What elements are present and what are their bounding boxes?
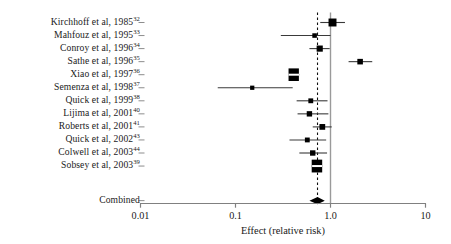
- study-reference-number: 36: [133, 67, 140, 74]
- forest-row: [139, 138, 327, 143]
- forest-row: [139, 111, 329, 116]
- forest-row: [139, 68, 300, 81]
- x-axis-tick-label: 1.0: [324, 210, 337, 221]
- study-label-text: Semenza et al, 1998: [54, 81, 133, 92]
- study-reference-number: 33: [133, 28, 140, 35]
- study-label-text: Mahfouz et al, 1995: [54, 29, 133, 40]
- forest-row: [139, 59, 373, 65]
- x-axis-tick-label: 0.1: [229, 210, 242, 221]
- study-label-text: Lijima et al, 2001: [63, 107, 133, 118]
- point-estimate-marker: [307, 111, 312, 116]
- study-reference-number: 32: [133, 15, 140, 22]
- study-label: Mahfouz et al, 199533: [54, 29, 140, 40]
- forest-plot: Kirchhoff et al, 198532Mahfouz et al, 19…: [0, 0, 451, 244]
- x-axis-tick-label: 0.01: [132, 210, 150, 221]
- point-estimate-marker: [308, 98, 313, 103]
- study-label-text: Xiao et al, 1997: [70, 68, 133, 79]
- x-axis-tick-label: 10: [420, 210, 430, 221]
- study-label: Roberts et al, 200141: [59, 120, 140, 131]
- forest-row: [139, 98, 328, 103]
- x-axis-title: Effect (relative risk): [241, 225, 325, 236]
- study-label-text: Colwell et al, 2003: [58, 146, 133, 157]
- point-estimate-marker: [312, 33, 317, 38]
- study-label: Sathe et al, 199635: [68, 55, 140, 66]
- study-label-text: Conroy et al, 1996: [60, 42, 133, 53]
- study-label-text: Quick et al, 1999: [65, 94, 133, 105]
- combined-label: Combined: [99, 194, 140, 205]
- forest-row: [139, 33, 331, 38]
- forest-row: [139, 150, 328, 155]
- study-label: Xiao et al, 199736: [70, 68, 140, 79]
- point-estimate-marker: [305, 138, 310, 143]
- study-reference-number: 37: [133, 80, 140, 87]
- study-label-text: Kirchhoff et al, 1985: [51, 16, 133, 27]
- point-estimate-marker: [310, 150, 315, 155]
- study-reference-number: 35: [133, 54, 140, 61]
- study-reference-number: 40: [133, 106, 140, 113]
- study-label: Kirchhoff et al, 198532: [51, 16, 140, 27]
- study-label-text: Roberts et al, 2001: [59, 120, 133, 131]
- study-reference-number: 38: [133, 93, 140, 100]
- forest-row: [139, 124, 332, 130]
- forest-row: [139, 86, 293, 90]
- study-reference-number: 39: [133, 158, 140, 165]
- study-reference-number: 43: [133, 132, 140, 139]
- forest-row: [139, 46, 330, 52]
- point-estimate-marker: [250, 86, 254, 90]
- study-label: Colwell et al, 200344: [58, 146, 140, 157]
- forest-row: [139, 160, 323, 173]
- study-label-text: Sathe et al, 1996: [68, 55, 134, 66]
- point-estimate-marker: [357, 59, 363, 65]
- study-label: Conroy et al, 199634: [60, 42, 140, 53]
- study-label-text: Sobsey et al, 2003: [61, 159, 133, 170]
- study-reference-number: 34: [133, 41, 140, 48]
- point-estimate-marker: [329, 19, 337, 27]
- study-label: Quick et al, 199938: [65, 94, 140, 105]
- study-label: Sobsey et al, 200339: [61, 159, 140, 170]
- study-label: Semenza et al, 199837: [54, 81, 140, 92]
- study-label-text: Quick et al, 2002: [65, 133, 133, 144]
- study-reference-number: 41: [133, 119, 140, 126]
- point-estimate-marker: [319, 124, 325, 130]
- study-label: Lijima et al, 200140: [63, 107, 140, 118]
- study-label: Quick et al, 200243: [65, 133, 140, 144]
- forest-row: [139, 19, 345, 27]
- point-estimate-marker: [317, 46, 323, 52]
- study-reference-number: 44: [133, 145, 140, 152]
